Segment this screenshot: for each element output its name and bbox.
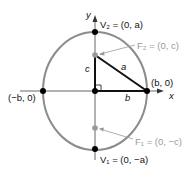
ellipse-diagram: y x V₂ = (0, a) F₂ = (0, c) c a b (b, 0)… [0,0,195,169]
focus-f2 [92,52,98,58]
point-right [144,88,150,94]
f1-arrow-icon [99,128,104,132]
f2-label: F₂ = (0, c) [137,40,179,51]
focus-f1 [92,125,98,131]
vertex-v1 [92,146,98,152]
f2-arrow-icon [99,52,105,56]
x-axis-arrow-icon [157,89,164,94]
segment-a-label: a [121,61,126,72]
x-axis-label: x [168,90,175,101]
segment-c-label: c [85,63,90,74]
v2-label: V₂ = (0, a) [100,19,143,30]
f2-leader [100,45,135,54]
f1-label: F₁ = (0, −c) [135,136,182,147]
left-point-label: (−b, 0) [8,92,36,103]
v1-label: V₁ = (0, −a) [100,154,148,165]
f1-leader [100,129,133,139]
vertex-v2 [92,29,98,35]
point-left [40,88,46,94]
y-axis-label: y [85,9,92,20]
y-axis-arrow-icon [93,15,98,22]
segment-b-label: b [125,92,130,103]
right-point-label: (b, 0) [151,77,173,88]
center-point [92,88,98,94]
